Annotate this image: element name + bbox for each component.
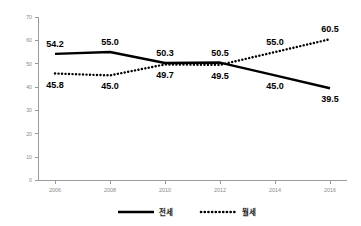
data-label: 55.0 (101, 37, 119, 47)
x-tick-label: 2016 (324, 187, 336, 193)
x-tick-marks (55, 181, 330, 185)
chart-plot-area: 010203040506070 200620082010201220142016… (0, 0, 361, 226)
x-tick-label: 2006 (49, 187, 61, 193)
x-tick-label: 2014 (269, 187, 281, 193)
data-label: 50.3 (156, 48, 174, 58)
data-label: 50.5 (211, 48, 229, 58)
y-tick-label: 30 (26, 107, 32, 113)
x-tick-label: 2010 (159, 187, 171, 193)
data-label: 49.7 (156, 70, 174, 80)
y-tick-labels: 010203040506070 (26, 14, 32, 184)
data-label: 49.5 (211, 71, 229, 81)
y-tick-label: 50 (26, 61, 32, 67)
chart-legend: 전세월세 (118, 207, 256, 217)
y-tick-label: 20 (26, 131, 32, 137)
y-tick-label: 70 (26, 14, 32, 20)
y-tick-label: 0 (29, 177, 32, 183)
legend-label-1: 전세 (159, 207, 173, 217)
y-tick-label: 40 (26, 84, 32, 90)
y-tick-marks (35, 17, 39, 181)
data-label: 60.5 (321, 24, 339, 34)
y-tick-label: 60 (26, 37, 32, 43)
series-line-1 (55, 52, 330, 88)
series-line-2 (55, 39, 330, 75)
x-tick-label: 2012 (214, 187, 226, 193)
x-tick-labels: 200620082010201220142016 (49, 187, 336, 193)
data-label: 39.5 (321, 94, 339, 104)
data-label: 45.0 (101, 81, 119, 91)
data-label: 45.8 (46, 80, 64, 90)
data-label: 54.2 (46, 39, 64, 49)
y-tick-label: 10 (26, 154, 32, 160)
legend-label-2: 월세 (242, 207, 256, 217)
series-data-labels: 54.255.050.350.545.039.545.845.049.749.5… (46, 24, 339, 104)
line-chart: 010203040506070 200620082010201220142016… (0, 0, 361, 226)
x-tick-label: 2008 (104, 187, 116, 193)
data-label: 55.0 (266, 37, 284, 47)
series-lines (55, 39, 330, 88)
data-label: 45.0 (266, 81, 284, 91)
